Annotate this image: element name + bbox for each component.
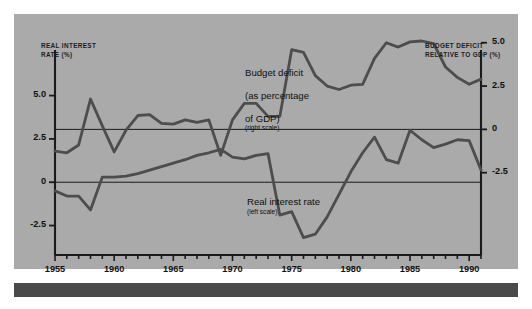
left-axis-title: REAL INTEREST RATE (%) <box>41 42 96 59</box>
left-tick-label-0: 0 <box>41 176 46 186</box>
annotation-deficit-scale: (right scale) <box>245 124 309 132</box>
right-tick-label-5neg0: 5.0 <box>492 36 505 46</box>
right-tick-label-2neg5: 2.5 <box>492 80 505 90</box>
left-tick-label-neg2-5: -2.5 <box>30 219 46 229</box>
right-axis-title: BUDGET DEFICIT RELATIVE TO GDP (%) <box>425 42 501 59</box>
right-tick-label-0: 0 <box>492 123 497 133</box>
figure-root: REAL INTEREST RATE (%) BUDGET DEFICIT RE… <box>0 0 532 309</box>
annotation-budget-deficit: Budget deficit (as percentage of GDP) (r… <box>245 56 309 144</box>
x-tick-label-1970: 1970 <box>220 264 246 274</box>
left-tick-label-5neg0: 5.0 <box>33 89 46 99</box>
left-tick-label-2neg5: 2.5 <box>33 132 46 142</box>
x-tick-label-1955: 1955 <box>42 264 68 274</box>
x-tick-label-1990: 1990 <box>456 264 482 274</box>
x-tick-label-1960: 1960 <box>101 264 127 274</box>
annotation-deficit-line2: (as percentage <box>245 90 309 101</box>
annotation-rate-scale: (left scale) <box>247 208 320 216</box>
right-tick-label-neg2-5: -2.5 <box>492 166 508 176</box>
figure-footer-bar <box>14 283 518 297</box>
x-tick-label-1965: 1965 <box>160 264 186 274</box>
annotation-rate-line1: Real interest rate <box>247 196 320 207</box>
annotation-deficit-line3: of GDP) <box>245 113 280 124</box>
chart-panel: REAL INTEREST RATE (%) BUDGET DEFICIT RE… <box>14 14 518 269</box>
annotation-deficit-line1: Budget deficit <box>245 67 303 78</box>
x-tick-label-1980: 1980 <box>338 264 364 274</box>
annotation-real-interest-rate: Real interest rate (left scale) <box>247 185 320 228</box>
x-tick-label-1985: 1985 <box>397 264 423 274</box>
x-tick-label-1975: 1975 <box>279 264 305 274</box>
